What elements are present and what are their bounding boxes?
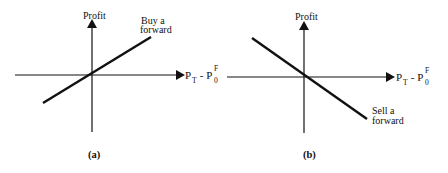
svg-text:P: P: [396, 71, 402, 83]
svg-text:P: P: [185, 69, 191, 81]
svg-text:- P: - P: [408, 71, 423, 83]
y-axis-label: Profit: [83, 10, 106, 21]
line-label-line2: forward: [140, 24, 172, 35]
panel-a: Profit Buy a forward P T - P F 0 (a): [15, 10, 218, 161]
svg-text:0: 0: [425, 78, 429, 87]
payoff-line-long: [43, 37, 151, 103]
x-axis-arrow-icon: [386, 72, 395, 82]
y-axis-label: Profit: [295, 11, 318, 22]
line-label-line2: forward: [372, 115, 404, 126]
svg-text:- P: - P: [197, 69, 212, 81]
x-axis-label: P T - P F 0: [185, 64, 218, 85]
svg-text:0: 0: [214, 76, 218, 85]
payoff-diagrams: Profit Buy a forward P T - P F 0 (a) Pro…: [0, 0, 448, 173]
y-axis-arrow-icon: [299, 21, 309, 30]
panel-b: Profit Sell a forward P T - P F 0 (b): [227, 11, 429, 161]
panel-caption: (b): [303, 149, 316, 161]
x-axis-arrow-icon: [176, 70, 185, 80]
panel-caption: (a): [88, 149, 101, 161]
svg-text:F: F: [425, 66, 429, 75]
svg-text:F: F: [214, 64, 218, 73]
x-axis-label: P T - P F 0: [396, 66, 429, 87]
payoff-line-short: [252, 38, 367, 119]
